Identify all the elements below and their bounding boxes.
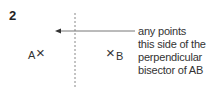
annotation-line: any points xyxy=(138,25,206,38)
point-b-label: B xyxy=(116,50,123,62)
arrow-head-icon xyxy=(55,29,61,34)
point-a-label: A xyxy=(28,49,35,61)
point-a-marker: × xyxy=(36,44,45,61)
annotation-text: any points this side of the perpendicula… xyxy=(138,25,206,77)
annotation-line: this side of the xyxy=(138,38,206,51)
annotation-line: bisector of AB xyxy=(138,64,206,77)
annotation-line: perpendicular xyxy=(138,51,206,64)
point-b-marker: × xyxy=(106,44,115,61)
